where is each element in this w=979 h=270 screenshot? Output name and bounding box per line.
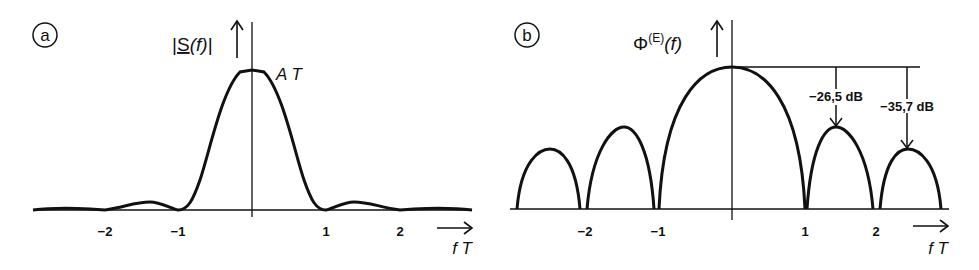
panel-b-y-arrow-icon bbox=[711, 21, 723, 57]
panel-b-tick: −2 bbox=[578, 224, 593, 239]
panel-b-lobe bbox=[880, 149, 941, 209]
panel-b-tick: 1 bbox=[801, 224, 808, 239]
panel-a-x-arrow-icon bbox=[437, 222, 472, 234]
panel-a-ylabel: |S(f)| bbox=[172, 34, 213, 55]
panel-b-x-arrow-icon bbox=[913, 220, 948, 232]
panel-b-xlabel: f T bbox=[928, 239, 949, 258]
panel-b-lobe bbox=[517, 149, 580, 209]
panel-a-y-arrow-icon bbox=[231, 21, 243, 58]
panel-b-curve bbox=[517, 67, 941, 209]
panel-a-tick: 2 bbox=[396, 224, 403, 239]
panel-a: a |S(f)| A T −2 −1 1 2 f T bbox=[33, 21, 474, 258]
panel-a-tick: −2 bbox=[98, 224, 113, 239]
panel-b-tag: b bbox=[522, 26, 531, 45]
figure: a |S(f)| A T −2 −1 1 2 f T b Φ(E bbox=[0, 0, 979, 270]
panel-b: b Φ(E)(f) −26,5 dB bbox=[510, 20, 950, 258]
panel-a-xlabel: f T bbox=[452, 239, 473, 258]
panel-a-tick: 1 bbox=[322, 224, 329, 239]
panel-b-tick: −1 bbox=[651, 224, 666, 239]
panel-b-annotation-26-5-db: −26,5 dB bbox=[809, 89, 863, 104]
panel-b-annotation-35-7-db: −35,7 dB bbox=[880, 99, 934, 114]
panel-a-peak-label: A T bbox=[275, 65, 303, 84]
panel-b-ylabel: Φ(E)(f) bbox=[633, 31, 682, 54]
panel-b-lobe bbox=[807, 127, 873, 209]
panel-a-tick: −1 bbox=[171, 224, 186, 239]
panel-a-tag: a bbox=[40, 26, 50, 45]
panel-b-lobe bbox=[587, 127, 654, 209]
panel-b-tick: 2 bbox=[872, 224, 879, 239]
